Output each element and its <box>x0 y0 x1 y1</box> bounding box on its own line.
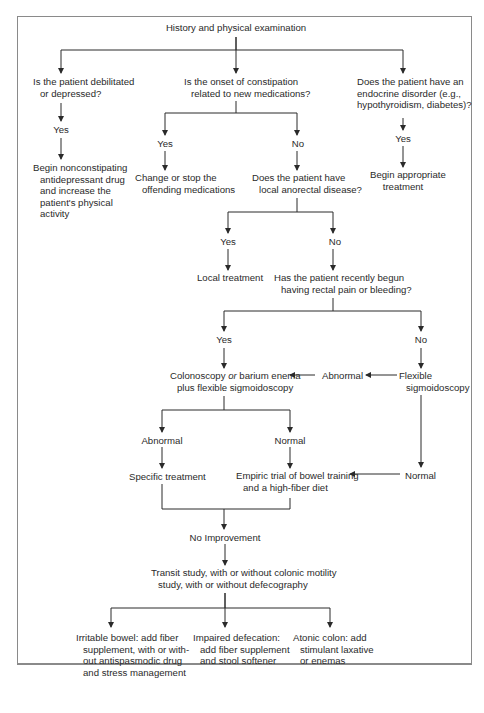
node-impaired-defecation: Impaired defecation: add fiber supplemen… <box>193 632 290 667</box>
label-no: No <box>411 334 431 346</box>
node-q-endocrine: Does the patient have an endocrine disor… <box>357 76 472 111</box>
node-atonic-colon: Atonic colon: add stimulant laxative or … <box>293 632 374 667</box>
label-yes: Yes <box>51 124 71 136</box>
label-no: No <box>288 138 308 150</box>
label-abnormal: Abnormal <box>322 370 363 382</box>
node-q-rectal: Has the patient recently begun having re… <box>274 272 412 295</box>
label-normal: Normal <box>268 435 312 447</box>
node-specific-treatment: Specific treatment <box>129 471 206 483</box>
node-q-medications: Is the onset of constipation related to … <box>184 76 310 99</box>
label-yes: Yes <box>214 334 234 346</box>
node-q-anorectal: Does the patient have local anorectal di… <box>252 172 362 195</box>
node-no-improvement: No Improvement <box>185 532 265 544</box>
node-empiric-trial: Empiric trial of bowel training and a hi… <box>236 470 359 493</box>
node-q-debilitated: Is the patient debilitated or depressed? <box>33 76 134 99</box>
label-no: No <box>325 236 345 248</box>
node-a-medications: Change or stop the offending medications <box>135 172 235 195</box>
colonoscopy-line-1: Colonoscopy or barium enema <box>170 370 301 381</box>
label-yes: Yes <box>155 138 175 150</box>
node-colonoscopy: Colonoscopy or barium enema plus flexibl… <box>170 370 301 393</box>
node-history-exam: History and physical examination <box>160 22 312 34</box>
node-a-endocrine: Begin appropriate treatment <box>370 169 436 192</box>
emphasis-or: or <box>228 370 237 381</box>
label-yes: Yes <box>218 236 238 248</box>
node-transit-study: Transit study, with or without colonic m… <box>151 567 337 590</box>
node-flexible-sigmoidoscopy: Flexible sigmoidoscopy <box>399 370 469 393</box>
node-irritable-bowel: Irritable bowel: add fiber supplement, w… <box>76 632 189 678</box>
label-normal: Normal <box>405 470 436 482</box>
label-yes: Yes <box>393 133 413 145</box>
node-a-debilitated: Begin nonconstipating antidepressant dru… <box>33 162 127 220</box>
node-local-treatment: Local treatment <box>197 272 263 284</box>
label-abnormal: Abnormal <box>135 435 189 447</box>
